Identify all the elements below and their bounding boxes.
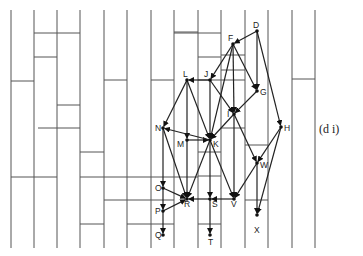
edge-G-I — [235, 91, 257, 113]
edge-K-R — [188, 140, 210, 197]
node-label: V — [231, 199, 237, 209]
node-dot — [255, 89, 259, 93]
figure-caption: (d i) — [319, 122, 339, 137]
node-F: F — [228, 33, 235, 46]
edge-D-H — [257, 31, 281, 125]
node-label: L — [183, 69, 188, 79]
node-dot — [232, 112, 236, 116]
edge-F-J — [211, 44, 233, 78]
node-label: H — [284, 123, 290, 133]
node-dot — [208, 78, 212, 82]
node-label: O — [155, 183, 162, 193]
edge-F-K — [210, 44, 233, 138]
node-dot — [279, 125, 283, 129]
node-L: L — [183, 69, 189, 82]
node-label: D — [253, 20, 259, 30]
node-dot — [185, 138, 189, 142]
node-V: V — [231, 197, 237, 209]
edge-F-I — [233, 44, 234, 112]
node-dot — [208, 138, 212, 142]
node-label: K — [213, 139, 219, 149]
edge-W-V — [235, 163, 257, 197]
node-label: Q — [155, 230, 162, 240]
node-label: X — [254, 225, 260, 235]
node-label: S — [212, 199, 218, 209]
edge-D-F — [235, 31, 257, 43]
node-dot — [161, 233, 165, 237]
node-label: W — [260, 160, 268, 170]
node-dot — [161, 126, 165, 130]
node-D: D — [253, 20, 259, 33]
node-label: F — [228, 33, 233, 43]
edge-H-W — [258, 127, 281, 161]
node-dot — [161, 209, 165, 213]
node-dot — [255, 213, 259, 217]
graph-nodes: DFLJGINHMKWORSVPXQT — [155, 20, 290, 247]
node-label: M — [177, 139, 184, 149]
directed-graph-diagram: DFLJGINHMKWORSVPXQT — [0, 0, 363, 256]
graph-edges — [163, 31, 281, 233]
node-label: P — [155, 206, 161, 216]
node-label: J — [204, 69, 208, 79]
node-label: N — [155, 123, 161, 133]
node-T: T — [208, 233, 213, 247]
node-X: X — [254, 213, 260, 235]
node-R: R — [184, 197, 190, 209]
node-label: G — [260, 87, 267, 97]
node-label: R — [184, 199, 190, 209]
node-label: I — [227, 109, 229, 119]
node-dot — [255, 161, 259, 165]
edge-H-X — [258, 127, 281, 213]
node-dot — [161, 186, 165, 190]
edge-L-N — [164, 80, 187, 126]
node-label: T — [208, 237, 213, 247]
